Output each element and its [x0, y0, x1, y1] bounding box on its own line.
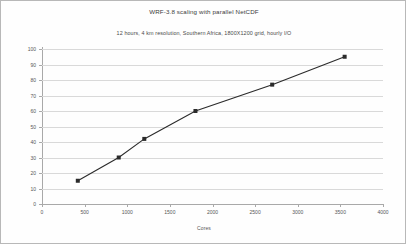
y-tick-label: 20 — [16, 170, 36, 176]
chart-title: WRF-3.8 scaling with parallel NetCDF — [1, 8, 406, 15]
chart-subtitle: 12 hours, 4 km resolution, Southern Afri… — [1, 30, 406, 36]
data-point-marker — [142, 137, 146, 141]
y-tick-label: 70 — [16, 93, 36, 99]
x-tick-mark — [298, 204, 299, 207]
x-tick-mark — [127, 204, 128, 207]
series-polyline — [78, 57, 345, 181]
x-tick-mark — [85, 204, 86, 207]
y-tick-label: 100 — [16, 46, 36, 52]
data-point-marker — [193, 109, 197, 113]
y-tick-label: 80 — [16, 77, 36, 83]
plot-area — [42, 49, 383, 204]
y-tick-label: 40 — [16, 139, 36, 145]
y-tick-label: 0 — [16, 201, 36, 207]
x-tick-label: 500 — [72, 209, 98, 215]
x-tick-mark — [383, 204, 384, 207]
x-tick-mark — [340, 204, 341, 207]
data-point-marker — [343, 55, 347, 59]
x-tick-label: 3000 — [285, 209, 311, 215]
y-tick-label: 60 — [16, 108, 36, 114]
data-point-marker — [270, 83, 274, 87]
data-series-line — [42, 49, 383, 204]
x-tick-label: 1000 — [114, 209, 140, 215]
x-tick-label: 4000 — [370, 209, 396, 215]
x-tick-mark — [170, 204, 171, 207]
y-tick-label: 50 — [16, 124, 36, 130]
x-tick-mark — [213, 204, 214, 207]
x-tick-label: 2500 — [242, 209, 268, 215]
x-axis-label: Cores — [1, 225, 406, 231]
x-tick-mark — [42, 204, 43, 207]
x-tick-label: 2000 — [200, 209, 226, 215]
x-tick-mark — [255, 204, 256, 207]
y-tick-label: 30 — [16, 155, 36, 161]
x-tick-label: 0 — [29, 209, 55, 215]
y-tick-label: 90 — [16, 62, 36, 68]
y-tick-label: 10 — [16, 186, 36, 192]
x-tick-label: 3500 — [327, 209, 353, 215]
data-point-marker — [117, 156, 121, 160]
data-point-marker — [76, 179, 80, 183]
chart-container: WRF-3.8 scaling with parallel NetCDF 12 … — [0, 0, 406, 244]
x-tick-label: 1500 — [157, 209, 183, 215]
